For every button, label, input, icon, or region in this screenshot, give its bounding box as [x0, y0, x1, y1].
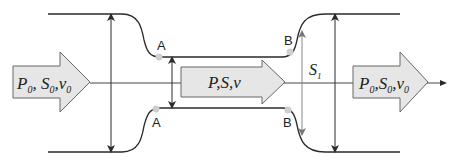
inlet-label: P0, S0,v0	[16, 74, 71, 95]
bottom-wall	[48, 108, 400, 152]
label-a-top: A	[157, 38, 166, 53]
section-s1-label: S1	[309, 61, 322, 81]
axis-arrowhead-icon	[440, 80, 447, 86]
point-b-top	[287, 49, 294, 56]
point-b-bottom	[285, 107, 292, 114]
point-a-top	[156, 54, 163, 61]
point-a-bottom	[153, 106, 160, 113]
label-b-top: B	[284, 33, 293, 48]
label-b-bottom: B	[283, 115, 292, 130]
top-wall	[48, 14, 400, 57]
throat-label: P,S,v	[207, 73, 241, 92]
outlet-label: P0,S0,v0	[358, 74, 409, 95]
flow-diagram: A A B B P0, S0,v0 P,S,v S1 P0,S0,v0	[0, 0, 456, 164]
label-a-bottom: A	[152, 115, 161, 130]
